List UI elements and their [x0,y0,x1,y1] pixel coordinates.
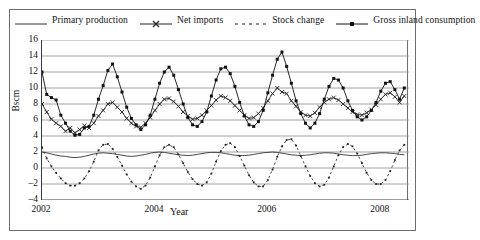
y-tick-label: 14 [8,51,38,61]
legend-label-stock-change: Stock change [272,15,324,25]
legend-sample-dashed-dots [234,15,268,25]
legend-label-net-imports: Net imports [177,15,223,25]
legend-item-net-imports: Net imports [139,15,234,25]
legend-sample-line-x-marker [139,15,173,25]
x-tick-label: 2008 [370,205,389,215]
legend-item-gross-inland-consumption: Gross inland consumption [335,15,480,25]
y-tick-label: 0 [8,163,38,173]
plot-canvas [42,40,409,200]
legend-sample-solid-line [14,15,48,25]
legend-item-stock-change: Stock change [234,15,335,25]
x-axis-tick-labels: 2002200420062008 [41,205,408,219]
legend-label-gross-inland-consumption: Gross inland consumption [373,15,475,25]
x-tick-label: 2002 [32,205,51,215]
legend-label-primary-production: Primary production [52,15,128,25]
y-tick-label: 4 [8,131,38,141]
x-tick-label: 2006 [257,205,276,215]
chart-legend: Primary production Net imports Stock cha… [14,12,410,28]
x-axis-title: Year [170,207,188,217]
y-axis-title: Bscm [12,71,22,131]
y-tick-label: 2 [8,147,38,157]
legend-sample-line-square-marker [335,15,369,25]
x-tick-label: 2004 [144,205,163,215]
legend-item-primary-production: Primary production [14,15,139,25]
y-tick-label: 16 [8,35,38,45]
y-tick-label: –2 [8,179,38,189]
plot-area [41,40,408,200]
